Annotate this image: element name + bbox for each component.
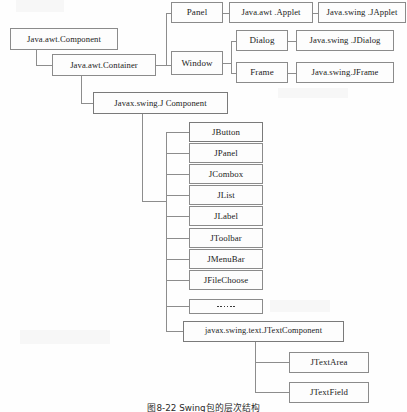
edge-container-to-bus — [156, 65, 166, 66]
edge-trunk-to-jbutton — [166, 132, 190, 133]
node-label: Java.awt.Component — [27, 35, 101, 44]
edge-component-to-container-vertical — [36, 50, 37, 65]
edge-bus-to-jtextarea — [255, 362, 290, 363]
node-label: Java.swing .JDialog — [310, 36, 381, 45]
node-javax-swing-jcomponent[interactable]: Javax.swing.J Component — [93, 92, 228, 114]
node-java-swing-jdialog[interactable]: Java.swing .JDialog — [296, 30, 394, 51]
node-jbutton[interactable]: JButton — [189, 122, 263, 142]
node-label: JTextArea — [311, 358, 348, 367]
node-label: JPanel — [214, 149, 238, 158]
edge-window-to-bus — [223, 63, 231, 64]
edge-trunk-to-jpanel — [166, 153, 190, 154]
node-label: Dialog — [249, 36, 274, 45]
node-label: Window — [181, 59, 212, 68]
node-jfilechoose[interactable]: JFileChoose — [189, 270, 263, 290]
node-jtextarea[interactable]: JTextArea — [289, 352, 369, 373]
edge-panel-window-bus — [166, 13, 167, 66]
node-java-awt-container[interactable]: Java.awt.Container — [52, 54, 156, 76]
node-label: JFileChoose — [204, 276, 249, 285]
node-label: Panel — [187, 8, 208, 17]
node-label: Java.swing .JApplet — [327, 8, 398, 17]
node-label: Java.swing.JFrame — [311, 68, 378, 77]
edge-bus-to-jtextfield — [255, 392, 290, 393]
edge-trunk-to-ellipsis — [166, 306, 190, 307]
node-jmenubar[interactable]: JMenuBar — [189, 249, 263, 269]
node-label: javax.swing.text.JTextComponent — [205, 327, 322, 335]
edge-trunk-to-jtextcomponent — [166, 331, 184, 332]
ellipsis-icon — [217, 306, 235, 308]
edge-container-to-jcomponent-vertical — [81, 76, 82, 103]
edge-component-to-container-horizontal — [36, 65, 53, 66]
edge-trunk-to-jcombox — [166, 174, 190, 175]
figure-caption: 图8-22 Swing包的层次结构 — [0, 401, 407, 412]
node-jcombox[interactable]: JCombox — [189, 164, 263, 184]
node-jpanel[interactable]: JPanel — [189, 143, 263, 163]
node-java-swing-japplet[interactable]: Java.swing .JApplet — [318, 2, 406, 23]
edge-dialog-frame-bus — [231, 41, 232, 73]
node-label: JLabel — [214, 212, 238, 221]
scan-texture — [270, 300, 330, 312]
node-jtoolbar[interactable]: JToolbar — [189, 228, 263, 248]
node-javax-swing-text-jtextcomponent[interactable]: javax.swing.text.JTextComponent — [183, 321, 344, 342]
node-java-awt-applet[interactable]: Java.awt .Applet — [229, 2, 313, 23]
scan-texture — [20, 330, 110, 344]
edge-trunk-to-jtoolbar — [166, 238, 190, 239]
node-label: JButton — [212, 128, 240, 137]
node-java-awt-component[interactable]: Java.awt.Component — [10, 28, 118, 50]
node-jlist[interactable]: JList — [189, 185, 263, 205]
node-label: JMenuBar — [207, 255, 244, 264]
edge-trunk-to-jfilechoose — [166, 280, 190, 281]
node-label: Frame — [250, 68, 274, 77]
node-jlabel[interactable]: JLabel — [189, 206, 263, 226]
edge-trunk-to-jlabel — [166, 216, 190, 217]
node-label: Java.awt .Applet — [241, 8, 300, 17]
node-frame[interactable]: Frame — [236, 62, 288, 83]
edge-trunk-to-jlist — [166, 195, 190, 196]
scan-texture — [16, 0, 64, 12]
node-dialog[interactable]: Dialog — [236, 30, 288, 51]
scan-texture — [278, 88, 348, 98]
node-ellipsis-more — [189, 299, 263, 314]
node-label: JToolbar — [210, 234, 241, 243]
node-java-swing-jframe[interactable]: Java.swing.JFrame — [296, 62, 394, 83]
edge-trunk-to-jmenubar — [166, 259, 190, 260]
edge-jcomponent-drop — [142, 114, 143, 201]
edge-jcomponent-to-trunk — [142, 201, 166, 202]
node-label: JList — [217, 191, 235, 200]
node-label: JTextField — [310, 388, 348, 397]
node-label: Javax.swing.J Component — [114, 99, 206, 108]
node-label: Java.awt.Container — [70, 61, 138, 70]
node-window[interactable]: Window — [171, 51, 223, 75]
node-panel[interactable]: Panel — [171, 2, 223, 23]
edge-jtextcomponent-drop — [255, 342, 256, 393]
edge-children-trunk — [166, 132, 167, 332]
node-jtextfield[interactable]: JTextField — [289, 382, 369, 403]
node-label: JCombox — [209, 170, 243, 179]
diagram-canvas: Java.awt.Component Java.awt.Container Pa… — [0, 0, 407, 412]
